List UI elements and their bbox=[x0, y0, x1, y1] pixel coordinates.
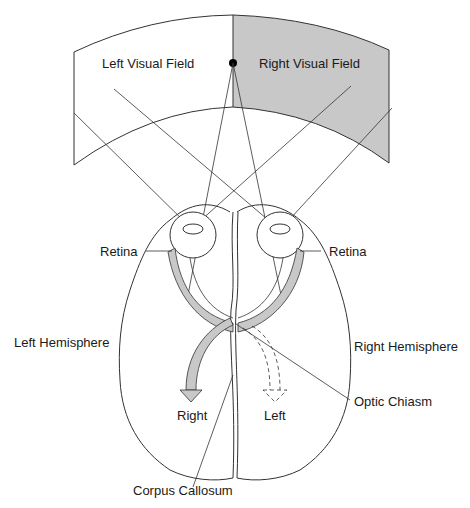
retina-right-label: Retina bbox=[329, 245, 367, 258]
retina-left-label: Retina bbox=[100, 245, 138, 258]
left-hemisphere-label: Left Hemisphere bbox=[14, 336, 109, 349]
leader-lines bbox=[146, 251, 350, 487]
left-visual-field-label: Left Visual Field bbox=[102, 57, 194, 70]
brain-outline bbox=[119, 205, 350, 480]
eyes bbox=[170, 212, 303, 258]
left-arrow-label: Left bbox=[264, 409, 286, 422]
optic-chiasm-label: Optic Chiasm bbox=[354, 395, 432, 408]
corpus-callosum-label: Corpus Callosum bbox=[133, 484, 233, 497]
right-visual-field-label: Right Visual Field bbox=[259, 57, 360, 70]
visual-field-band bbox=[74, 15, 389, 165]
diagram-graphic bbox=[0, 0, 470, 508]
right-hemisphere-label: Right Hemisphere bbox=[354, 340, 458, 353]
right-arrow-label: Right bbox=[177, 409, 207, 422]
visual-pathway-diagram: Left Visual Field Right Visual Field Ret… bbox=[0, 0, 470, 508]
